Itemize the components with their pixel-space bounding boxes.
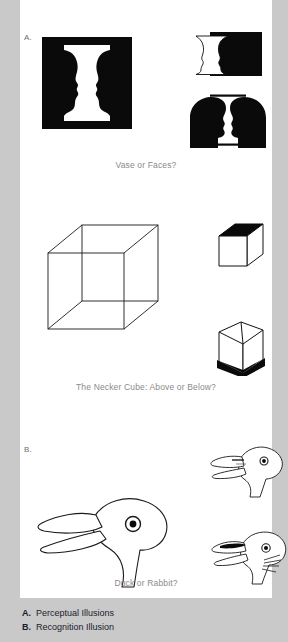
caption-duck-or-rabbit: Duck or Rabbit? [20, 578, 272, 588]
necker-cube-svg [46, 221, 166, 346]
legend-item-b: B.Recognition Illusion [22, 622, 114, 632]
necker-cube-large [46, 221, 166, 346]
panel-letter-a: A. [24, 33, 32, 42]
cube-top-black [215, 222, 267, 274]
rubin-vase-profile-svg [188, 30, 264, 80]
cube-top-black-svg [215, 222, 267, 274]
rubin-vase-profile-small [188, 30, 264, 80]
legend-key-a: A. [22, 608, 36, 618]
duck-rabbit-main-svg [34, 493, 174, 589]
figure-page: A. [0, 0, 288, 642]
duck-head-small-svg [206, 443, 288, 499]
duck-rabbit-main [34, 493, 174, 589]
legend-text-b: Recognition Illusion [36, 622, 114, 632]
legend-key-b: B. [22, 622, 36, 632]
duck-head-small [206, 443, 288, 499]
two-faces-svg [188, 92, 268, 150]
figure-legend: A.Perceptual Illusions B.Recognition Ill… [0, 598, 288, 642]
panel-letter-b: B. [24, 445, 32, 454]
figure-plate: A. [20, 0, 272, 598]
legend-text-a: Perceptual Illusions [36, 608, 114, 618]
caption-vase-or-faces: Vase or Faces? [20, 160, 272, 170]
legend-item-a: A.Perceptual Illusions [22, 608, 114, 618]
cube-bottom-black [215, 320, 267, 376]
cube-bottom-black-svg [215, 320, 267, 376]
two-faces-silhouette [188, 92, 268, 150]
rubin-vase-main-svg [42, 37, 132, 129]
caption-necker-cube: The Necker Cube: Above or Below? [20, 382, 272, 392]
rubin-vase-main [42, 37, 132, 129]
